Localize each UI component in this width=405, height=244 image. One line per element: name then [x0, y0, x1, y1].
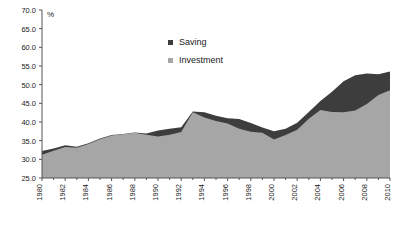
y-tick-label: 40.0	[21, 118, 36, 127]
chart-container: 25.030.035.040.045.050.055.060.065.070.0…	[0, 0, 405, 244]
x-tick-label: 1998	[244, 184, 253, 201]
y-axis-ticks: 25.030.035.040.045.050.055.060.065.070.0	[21, 6, 42, 183]
x-tick-label: 1994	[197, 184, 206, 201]
x-tick-label: 1988	[128, 184, 137, 201]
y-tick-label: 55.0	[21, 62, 36, 71]
legend-swatch-investment	[168, 58, 173, 63]
y-axis-unit-label: %	[47, 10, 54, 19]
legend-label-investment: Investment	[179, 55, 224, 65]
x-tick-label: 1990	[151, 184, 160, 201]
x-tick-label: 1982	[58, 184, 67, 201]
saving-investment-area-chart: 25.030.035.040.045.050.055.060.065.070.0…	[0, 0, 405, 244]
x-tick-label: 1996	[221, 184, 230, 201]
x-tick-label: 2002	[290, 184, 299, 201]
y-tick-label: 30.0	[21, 155, 36, 164]
x-tick-label: 1980	[35, 184, 44, 201]
x-axis-ticks: 1980198219841986198819901992199419961998…	[35, 178, 392, 201]
plot-area	[42, 72, 390, 178]
x-tick-label: 2008	[360, 184, 369, 201]
x-tick-label: 2000	[267, 184, 276, 201]
x-tick-label: 2006	[337, 184, 346, 201]
y-tick-label: 70.0	[21, 6, 36, 15]
y-tick-label: 50.0	[21, 81, 36, 90]
legend-swatch-saving	[168, 40, 173, 45]
y-tick-label: 25.0	[21, 174, 36, 183]
y-tick-label: 35.0	[21, 137, 36, 146]
x-tick-label: 2010	[383, 184, 392, 201]
chart-legend: SavingInvestment	[168, 37, 224, 65]
y-tick-label: 60.0	[21, 43, 36, 52]
legend-label-saving: Saving	[179, 37, 207, 47]
x-tick-label: 1986	[105, 184, 114, 201]
x-tick-label: 2004	[313, 184, 322, 201]
y-tick-label: 45.0	[21, 99, 36, 108]
x-tick-label: 1984	[81, 184, 90, 201]
y-tick-label: 65.0	[21, 25, 36, 34]
x-tick-label: 1992	[174, 184, 183, 201]
